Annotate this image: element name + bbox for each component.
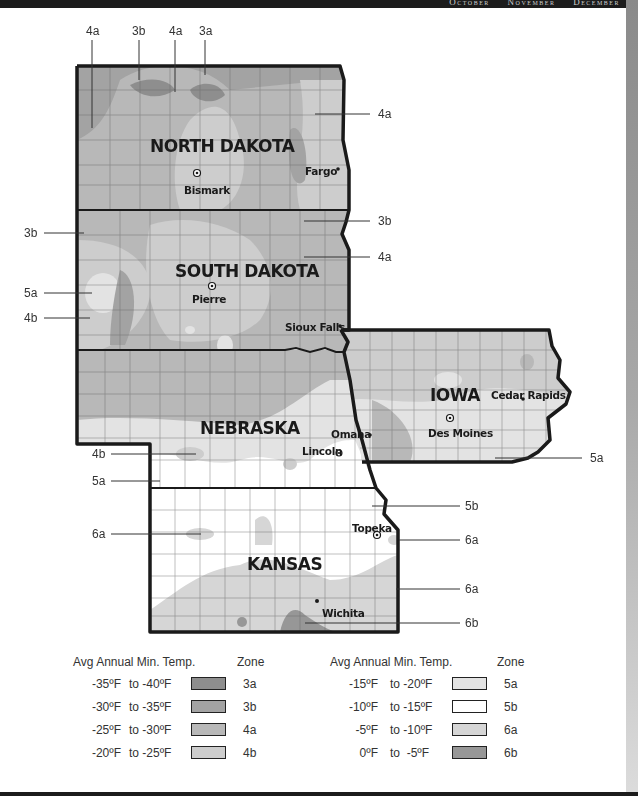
callout-right-7: 6a bbox=[465, 582, 479, 596]
callout-left-4: 4b bbox=[92, 447, 106, 461]
state-label-iowa: IOWA bbox=[430, 385, 481, 405]
legend-from-temp: 0ºF bbox=[330, 746, 378, 760]
legend-swatch-6a bbox=[452, 723, 487, 736]
legend-header: Avg Annual Min. Temp. Zone bbox=[73, 655, 323, 677]
legend-row: -5ºF to -10ºF 6a bbox=[330, 723, 580, 746]
state-label-kansas: KANSAS bbox=[247, 554, 322, 574]
legend-from-temp: -20ºF bbox=[73, 746, 121, 760]
capital-marker-bismark bbox=[194, 170, 201, 177]
legend-zone: 4a bbox=[243, 723, 256, 737]
legend-zone-heading: Zone bbox=[237, 655, 264, 669]
state-label-nebraska: NEBRASKA bbox=[200, 418, 301, 438]
state-label-south-dakota: SOUTH DAKOTA bbox=[175, 261, 320, 281]
callout-top-1: 4a bbox=[86, 24, 100, 38]
legend-to-temp: to -25ºF bbox=[129, 746, 171, 760]
callout-left-6: 6a bbox=[92, 527, 106, 541]
legend-to-temp: to -40ºF bbox=[129, 677, 171, 691]
legend-zone: 3a bbox=[243, 677, 256, 691]
legend-swatch-3b bbox=[191, 700, 226, 713]
page-footer-bar bbox=[0, 792, 638, 796]
legend-to-temp: to -20ºF bbox=[390, 677, 432, 691]
legend-zone: 5a bbox=[504, 677, 517, 691]
city-label-cedar-rapids: Cedar Rapids bbox=[491, 389, 566, 401]
callout-right-4: 5a bbox=[590, 451, 604, 465]
legend-from-temp: -15ºF bbox=[330, 677, 378, 691]
callout-right-6: 6a bbox=[465, 533, 479, 547]
callout-left-3: 4b bbox=[24, 311, 38, 325]
legend-from-temp: -30ºF bbox=[73, 700, 121, 714]
city-label-bismark: Bismark bbox=[184, 184, 231, 196]
legend-zone: 5b bbox=[504, 700, 517, 714]
legend-zone: 3b bbox=[243, 700, 256, 714]
legend-from-temp: -35ºF bbox=[73, 677, 121, 691]
legend-swatch-5a bbox=[452, 677, 487, 690]
city-marker-wichita bbox=[315, 599, 319, 603]
city-label-wichita: Wichita bbox=[322, 607, 365, 619]
legend-zone-heading: Zone bbox=[497, 655, 524, 669]
legend-row: 0ºF to -5ºF 6b bbox=[330, 746, 580, 769]
legend-row: -30ºF to -35ºF 3b bbox=[73, 700, 323, 723]
legend-zone: 6b bbox=[504, 746, 517, 760]
legend-swatch-4a bbox=[191, 723, 226, 736]
legend-row: -15ºF to -20ºF 5a bbox=[330, 677, 580, 700]
legend-zone: 6a bbox=[504, 723, 517, 737]
city-label-topeka: Topeka bbox=[352, 522, 392, 534]
legend-swatch-5b bbox=[452, 700, 487, 713]
callout-top-2: 3b bbox=[132, 24, 146, 38]
legend-to-temp: to -30ºF bbox=[129, 723, 171, 737]
legend-row: -20ºF to -25ºF 4b bbox=[73, 746, 323, 769]
callout-top-4: 3a bbox=[199, 24, 213, 38]
hardiness-zone-map: 4a 3b 4a 3a 3b 5a 4b 4b 5a 6a 4a 3b 4a 5… bbox=[0, 0, 638, 640]
legend-swatch-3a bbox=[191, 677, 226, 690]
city-label-lincoln: Lincoln bbox=[302, 445, 342, 457]
city-label-des-moines: Des Moines bbox=[428, 427, 493, 439]
legend-swatch-4b bbox=[191, 746, 226, 759]
legend-to-temp: to -5ºF bbox=[390, 746, 429, 760]
legend-right: Avg Annual Min. Temp. Zone -15ºF to -20º… bbox=[330, 655, 580, 769]
legend-from-temp: -25ºF bbox=[73, 723, 121, 737]
callout-right-8: 6b bbox=[465, 616, 479, 630]
callout-top-3: 4a bbox=[169, 24, 183, 38]
callout-right-3: 4a bbox=[378, 250, 392, 264]
legend-from-temp: -5ºF bbox=[330, 723, 378, 737]
legend-swatch-6b bbox=[452, 746, 487, 759]
callout-left-1: 3b bbox=[24, 226, 38, 240]
city-label-pierre: Pierre bbox=[192, 293, 226, 305]
legend-temp-heading: Avg Annual Min. Temp. bbox=[73, 655, 195, 669]
legend-left: Avg Annual Min. Temp. Zone -35ºF to -40º… bbox=[73, 655, 323, 769]
legend-from-temp: -10ºF bbox=[330, 700, 378, 714]
state-label-north-dakota: NORTH DAKOTA bbox=[150, 136, 296, 156]
city-label-omaha: Omaha bbox=[331, 428, 371, 440]
legend-row: -35ºF to -40ºF 3a bbox=[73, 677, 323, 700]
legend-row: -25ºF to -30ºF 4a bbox=[73, 723, 323, 746]
legend-to-temp: to -35ºF bbox=[129, 700, 171, 714]
capital-marker-des-moines bbox=[447, 415, 454, 422]
callout-left-5: 5a bbox=[92, 474, 106, 488]
legend-to-temp: to -15ºF bbox=[390, 700, 432, 714]
callout-left-2: 5a bbox=[24, 286, 38, 300]
callout-right-2: 3b bbox=[378, 214, 392, 228]
callout-right-5: 5b bbox=[465, 499, 479, 513]
city-label-fargo: Fargo bbox=[305, 165, 337, 177]
legend-temp-heading: Avg Annual Min. Temp. bbox=[330, 655, 452, 669]
capital-marker-pierre bbox=[209, 283, 216, 290]
legend-zone: 4b bbox=[243, 746, 256, 760]
legend-row: -10ºF to -15ºF 5b bbox=[330, 700, 580, 723]
legend-header: Avg Annual Min. Temp. Zone bbox=[330, 655, 580, 677]
callout-right-1: 4a bbox=[378, 107, 392, 121]
legend-to-temp: to -10ºF bbox=[390, 723, 432, 737]
city-label-sioux-falls: Sioux Falls bbox=[285, 321, 345, 333]
